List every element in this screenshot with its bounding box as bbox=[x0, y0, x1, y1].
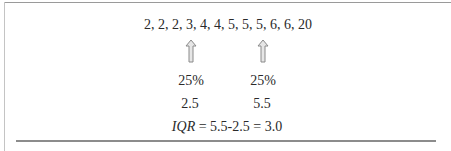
up-arrow-icon bbox=[185, 39, 197, 63]
figure-frame-left bbox=[4, 2, 5, 151]
lower-quartile-percent: 25% bbox=[178, 73, 204, 89]
iqr-expression: = 5.5-2.5 = 3.0 bbox=[195, 119, 282, 134]
lower-quartile-value: 2.5 bbox=[181, 96, 199, 112]
figure-frame-top bbox=[4, 2, 451, 3]
iqr-formula: IQR = 5.5-2.5 = 3.0 bbox=[172, 119, 282, 135]
upper-quartile-percent: 25% bbox=[250, 73, 276, 89]
bottom-rule bbox=[16, 140, 436, 142]
iqr-variable: IQR bbox=[172, 119, 195, 134]
data-series: 2, 2, 2, 3, 4, 4, 5, 5, 5, 6, 6, 20 bbox=[144, 17, 312, 33]
up-arrow-icon bbox=[257, 39, 269, 63]
upper-quartile-value: 5.5 bbox=[253, 96, 271, 112]
